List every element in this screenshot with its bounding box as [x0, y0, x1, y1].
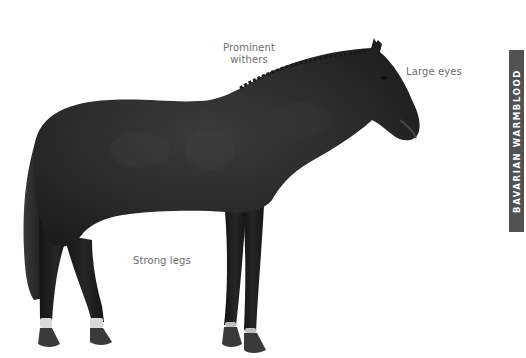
hoof	[38, 328, 60, 347]
sock	[90, 318, 103, 328]
breed-illustration-page: Prominent withers Large eyes Strong legs…	[0, 0, 526, 358]
hoof	[244, 333, 266, 353]
eye	[381, 76, 387, 80]
sock	[40, 318, 52, 328]
annotation-withers-line2: withers	[218, 54, 280, 66]
sock	[245, 328, 256, 333]
annotation-large-eyes: Large eyes	[406, 66, 462, 78]
breed-name-tab: BAVARIAN WARMBLOOD	[509, 50, 524, 232]
far-fore-leg	[242, 200, 264, 332]
near-fore-leg	[224, 200, 246, 326]
far-hind-leg	[64, 235, 104, 322]
hoof	[90, 328, 112, 345]
hoof	[222, 327, 242, 347]
annotation-strong-legs: Strong legs	[133, 255, 191, 267]
breed-name-label: BAVARIAN WARMBLOOD	[512, 69, 522, 213]
sock	[225, 322, 236, 327]
annotation-withers-line1: Prominent	[218, 42, 280, 54]
annotation-prominent-withers: Prominent withers	[218, 42, 280, 66]
